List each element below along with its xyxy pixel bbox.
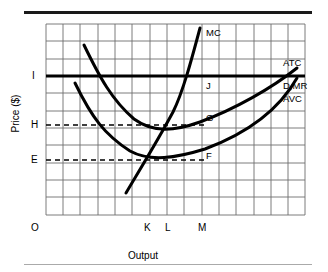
- economics-cost-curves-chart: [0, 0, 328, 272]
- x-axis-title: Output: [128, 250, 158, 261]
- point-label-j: J: [206, 80, 211, 91]
- y-tick-label-e: E: [31, 154, 38, 165]
- figure-root: Price ($) Output O I H E K L M MC ATC D,…: [0, 0, 328, 272]
- y-tick-label-i: I: [32, 70, 35, 81]
- x-tick-label-k: K: [144, 222, 151, 233]
- point-label-f: F: [206, 150, 212, 161]
- x-tick-label-l: L: [165, 222, 171, 233]
- curve-label-mc: MC: [206, 27, 221, 38]
- origin-label: O: [31, 222, 39, 233]
- curve-label-d-mr: D,MR: [283, 80, 307, 91]
- y-axis-title: Price ($): [10, 82, 21, 146]
- curve-mc: [126, 28, 200, 193]
- x-tick-label-m: M: [198, 222, 206, 233]
- y-tick-label-h: H: [31, 119, 38, 130]
- curve-label-atc: ATC: [283, 57, 301, 68]
- point-label-g: G: [206, 112, 213, 123]
- curve-label-avc: AVC: [283, 93, 302, 104]
- chart-grid: [46, 24, 305, 215]
